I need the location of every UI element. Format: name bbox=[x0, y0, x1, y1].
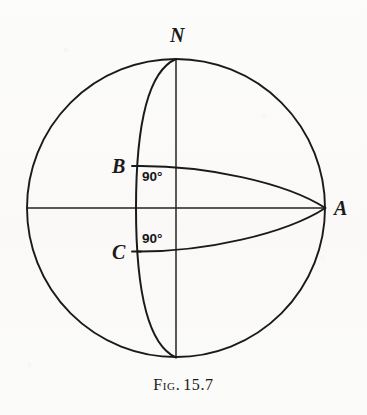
arc-c-to-a bbox=[137, 208, 325, 252]
arc-b-to-a bbox=[137, 166, 325, 208]
angle-label-lower: 90° bbox=[142, 232, 162, 246]
angle-label-upper: 90° bbox=[142, 170, 162, 184]
sphere-diagram-svg bbox=[0, 0, 367, 415]
figure-caption-prefix: Fig. bbox=[153, 376, 180, 393]
figure-page: N A B C 90° 90° Fig.15.7 bbox=[0, 0, 367, 415]
label-point-c: C bbox=[112, 242, 125, 262]
figure-caption-number: 15.7 bbox=[183, 376, 213, 393]
figure-caption: Fig.15.7 bbox=[0, 376, 367, 394]
label-point-a: A bbox=[334, 198, 347, 218]
label-point-b: B bbox=[112, 156, 125, 176]
label-north-pole: N bbox=[170, 25, 184, 45]
